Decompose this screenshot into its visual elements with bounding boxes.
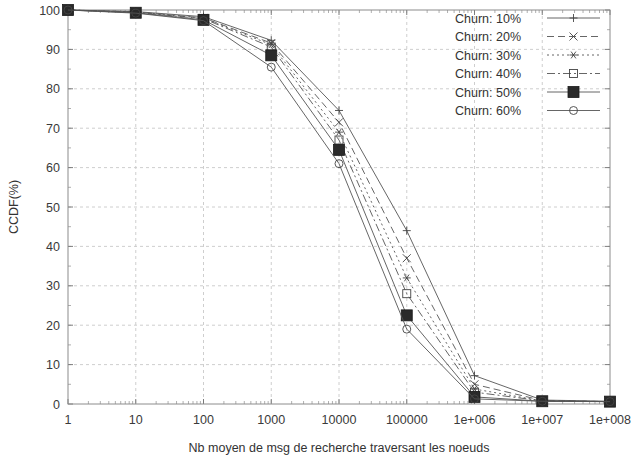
x-tick-label: 10000 (322, 413, 357, 427)
x-tick-label: 1000 (257, 413, 285, 427)
data-point-cross (403, 254, 411, 262)
x-tick-label: 10 (129, 413, 143, 427)
ccdf-line-chart: 1101001000100001000001e+0061e+0071e+008 … (0, 0, 637, 463)
data-point-plus (403, 227, 411, 235)
x-tick-label: 1e+007 (521, 413, 563, 427)
x-tick-label: 1e+006 (453, 413, 495, 427)
legend-label-1: Churn: 10% (455, 12, 521, 26)
y-tick-label: 20 (46, 319, 60, 333)
y-axis-tick-labels: 0102030405060708090100 (39, 4, 60, 412)
y-tick-label: 30 (46, 279, 60, 293)
legend-label-5: Churn: 50% (455, 86, 521, 100)
x-tick-label: 1e+008 (589, 413, 631, 427)
legend-label-4: Churn: 40% (455, 67, 521, 81)
legend-label-3: Churn: 30% (455, 49, 521, 63)
y-tick-label: 90 (46, 43, 60, 57)
data-point-square-filled (568, 87, 579, 98)
y-tick-label: 40 (46, 240, 60, 254)
x-tick-label: 100 (193, 413, 214, 427)
x-tick-label: 1 (65, 413, 72, 427)
y-axis-title: CCDF(%) (7, 180, 21, 234)
y-tick-label: 60 (46, 161, 60, 175)
data-point-square-filled (334, 144, 345, 155)
chart-container: 1101001000100001000001e+0061e+0071e+008 … (0, 0, 637, 463)
data-point-asterisk (335, 129, 343, 136)
data-point-asterisk (570, 52, 578, 59)
data-point-plus (570, 14, 578, 22)
grid-lines (68, 10, 610, 404)
y-tick-label: 80 (46, 82, 60, 96)
legend: Churn: 10%Churn: 20%Churn: 30%Churn: 40%… (455, 12, 600, 119)
legend-label-6: Churn: 60% (455, 104, 521, 118)
y-tick-label: 0 (53, 398, 60, 412)
x-tick-label: 100000 (386, 413, 428, 427)
data-point-cross (471, 380, 479, 388)
y-tick-label: 10 (46, 358, 60, 372)
x-axis-title: Nb moyen de msg de recherche traversant … (189, 441, 490, 455)
data-point-square-filled (266, 50, 277, 61)
y-tick-label: 70 (46, 122, 60, 136)
x-axis-tick-labels: 1101001000100001000001e+0061e+0071e+008 (65, 413, 632, 427)
y-tick-label: 100 (39, 4, 60, 18)
y-tick-label: 50 (46, 201, 60, 215)
legend-label-2: Churn: 20% (455, 30, 521, 44)
